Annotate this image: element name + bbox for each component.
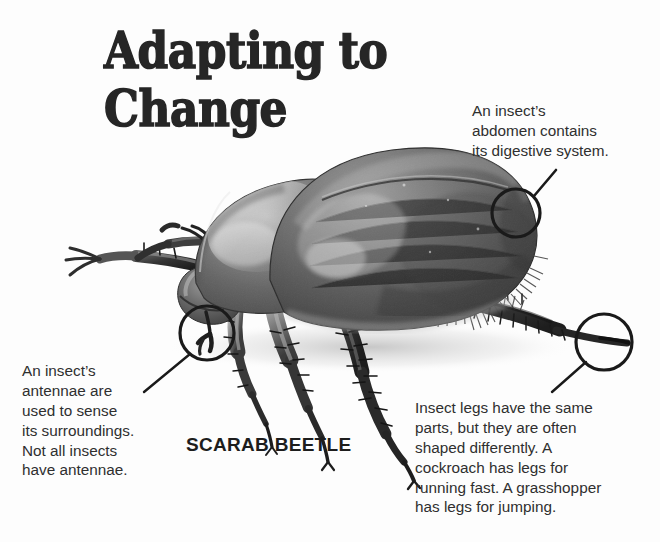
callout-antennae-line-3: used to sense [22, 401, 172, 421]
illustration-page: Adapting to Change An insect’s abdomen c… [0, 0, 660, 542]
species-caption: SCARAB BEETLE [186, 434, 351, 456]
callout-legs-line-4: cockroach has legs for [415, 458, 630, 478]
callout-legs-line-5: running fast. A grasshopper [415, 478, 630, 498]
callout-legs-line-2: parts, but they are often [415, 418, 630, 438]
callout-text-antennae: An insect’s antennae are used to sense i… [22, 361, 172, 480]
callout-antennae-line-1: An insect’s [22, 361, 172, 381]
callout-antennae-line-4: its surroundings. [22, 421, 172, 441]
callout-legs-line-6: has legs for jumping. [415, 497, 630, 517]
callout-antennae-line-2: antennae are [22, 381, 172, 401]
callout-abdomen-line-2: abdomen contains [472, 121, 632, 141]
callout-antennae-line-5: Not all insects [22, 441, 172, 461]
callout-abdomen-line-1: An insect’s [472, 101, 632, 121]
callout-legs-line-3: shaped differently. A [415, 438, 630, 458]
callout-legs-line-1: Insect legs have the same [415, 398, 630, 418]
callout-abdomen-line-3: its digestive system. [472, 141, 632, 161]
callout-antennae-line-6: have antennae. [22, 460, 172, 480]
callout-text-abdomen: An insect’s abdomen contains its digesti… [472, 101, 632, 161]
callout-text-legs: Insect legs have the same parts, but the… [415, 398, 630, 517]
